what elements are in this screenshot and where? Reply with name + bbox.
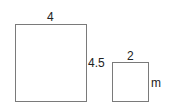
small-rectangle-height-label: m [151,77,161,89]
large-rectangle-width-label: 4 [47,11,54,23]
large-rectangle [15,24,87,102]
small-rectangle [112,62,149,102]
small-rectangle-width-label: 2 [127,50,134,62]
large-rectangle-height-label: 4.5 [88,57,105,69]
